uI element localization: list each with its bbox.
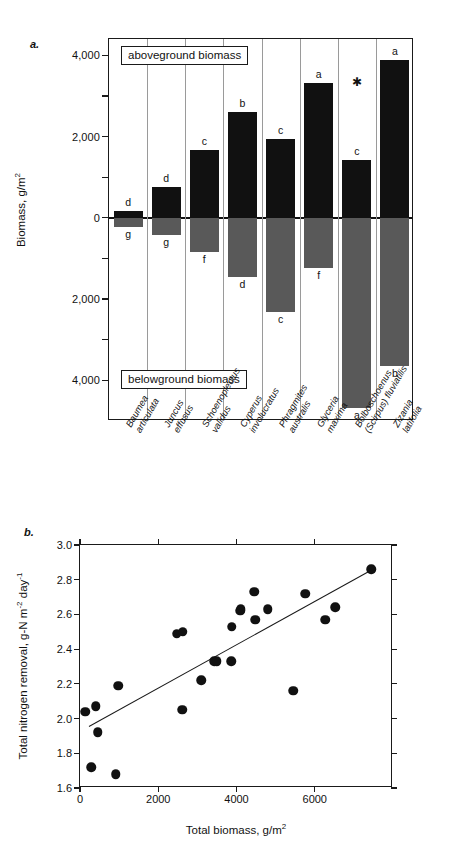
significance-letter-belowground: g [146, 236, 186, 248]
panel-b-y-axis-exponent-1: -2 [15, 601, 24, 608]
aboveground-biomass-bar [266, 139, 295, 217]
aboveground-biomass-bar [190, 150, 219, 217]
belowground-biomass-bar [114, 218, 143, 227]
scatter-point [91, 702, 101, 712]
y-axis-tick-right [391, 649, 397, 650]
x-axis-tick-label: 6000 [303, 793, 327, 805]
significance-letter-belowground: d [222, 278, 262, 290]
y-axis-tick-label: 2.8 [57, 574, 72, 586]
column-separator [338, 39, 339, 419]
significance-letter-aboveground: a [375, 45, 415, 57]
panel-b-x-axis-title: Total biomass, g/m2 [186, 822, 286, 836]
x-axis-tick-top [158, 539, 159, 545]
scatter-point [80, 707, 90, 717]
y-axis-tick-label: 1.6 [57, 782, 72, 794]
scatter-point [93, 728, 103, 738]
panel-b-letter: b. [24, 526, 34, 538]
regression-line [89, 570, 372, 727]
y-axis-tick [74, 718, 80, 719]
x-axis-tick-top [236, 539, 237, 545]
y-axis-tick-right [391, 544, 397, 545]
y-axis-tick-label: 2.2 [57, 678, 72, 690]
belowground-biomass-bar [228, 218, 257, 277]
belowground-biomass-bar [380, 218, 409, 366]
column-separator [376, 39, 377, 419]
y-axis-tick [102, 258, 109, 259]
belowground-biomass-bar [152, 218, 181, 235]
x-axis-tick-top [79, 539, 80, 545]
y-axis-tick-right [391, 753, 397, 754]
y-axis-tick [102, 339, 109, 340]
scatter-point [251, 615, 261, 625]
y-axis-tick [102, 380, 109, 381]
scatter-point [227, 657, 237, 667]
significance-letter-belowground: g [108, 228, 148, 240]
belowground-biomass-bar [304, 218, 333, 268]
aboveground-biomass-bar [380, 60, 409, 218]
panel-b-y-axis-title: Total nitrogen removal, g-N m-2 day-1 [15, 573, 29, 760]
belowground-biomass-bar [190, 218, 219, 252]
panel-b-x-axis-exponent: 2 [282, 822, 286, 831]
y-axis-tick-right [391, 718, 397, 719]
scatter-point [330, 603, 340, 613]
panel-a: a. Biomass, g/m2 4,0002,00002,0004,000dg… [0, 0, 464, 500]
figure-root: a. Biomass, g/m2 4,0002,00002,0004,000dg… [0, 0, 464, 845]
panel-b-x-axis-title-text: Total biomass, g/m [186, 824, 282, 836]
y-axis-tick-right [391, 614, 397, 615]
significance-letter-aboveground: c [261, 124, 301, 136]
scatter-point [178, 627, 188, 637]
aboveground-biomass-bar [304, 83, 333, 218]
scatter-point [301, 589, 311, 599]
panel-b-y-axis-exponent-2: -1 [15, 573, 24, 580]
scatter-point [288, 686, 298, 696]
asterisk-marker: ✱ [352, 75, 362, 89]
scatter-point [263, 604, 273, 614]
y-axis-tick-right [391, 579, 397, 580]
panel-a-plot-area: 4,0002,00002,0004,000dgdgcfbdccafcaab✱ab… [108, 38, 413, 420]
scatter-point [321, 615, 331, 625]
y-axis-tick [74, 683, 80, 684]
scatter-point [197, 676, 207, 686]
x-axis-tick [314, 786, 315, 792]
y-axis-tick [102, 298, 109, 299]
panel-a-letter: a. [30, 38, 39, 50]
significance-letter-aboveground: c [337, 145, 377, 157]
y-axis-tick-right [391, 683, 397, 684]
y-axis-tick [74, 614, 80, 615]
y-axis-tick-label: 2.6 [57, 608, 72, 620]
significance-letter-aboveground: c [184, 135, 224, 147]
column-separator [185, 39, 186, 419]
aboveground-biomass-caption: aboveground biomass [121, 46, 248, 65]
y-axis-tick-label: 2,000 [72, 293, 100, 305]
scatter-point [367, 565, 377, 575]
belowground-biomass-bar [342, 218, 371, 408]
aboveground-biomass-bar [342, 160, 371, 218]
y-axis-tick-label: 4,000 [72, 49, 100, 61]
y-axis-tick [102, 217, 109, 218]
y-axis-tick-label: 1.8 [57, 747, 72, 759]
scatter-point [111, 769, 121, 779]
x-axis-tick-label: 2000 [146, 793, 170, 805]
y-axis-tick-label: 4,000 [72, 374, 100, 386]
y-axis-tick-label: 3.0 [57, 539, 72, 551]
y-axis-tick-label: 2.4 [57, 643, 72, 655]
x-axis-tick [79, 786, 80, 792]
significance-letter-aboveground: d [108, 196, 148, 208]
panel-b-y-axis-title-text-2: day [17, 580, 29, 602]
x-axis-tick [236, 786, 237, 792]
significance-letter-aboveground: a [299, 68, 339, 80]
x-axis-tick-label: 0 [77, 793, 83, 805]
x-axis-tick-top [314, 539, 315, 545]
scatter-point [114, 681, 124, 691]
y-axis-tick [74, 649, 80, 650]
y-axis-tick-label: 0 [94, 212, 100, 224]
y-axis-tick [74, 753, 80, 754]
significance-letter-aboveground: d [146, 172, 186, 184]
y-axis-tick [102, 177, 109, 178]
y-axis-tick [102, 55, 109, 56]
column-separator [300, 39, 301, 419]
y-axis-tick-label: 2.0 [57, 713, 72, 725]
y-axis-tick [74, 579, 80, 580]
panel-a-y-axis-title-text: Biomass, g/m [15, 177, 27, 247]
aboveground-biomass-bar [228, 112, 257, 218]
